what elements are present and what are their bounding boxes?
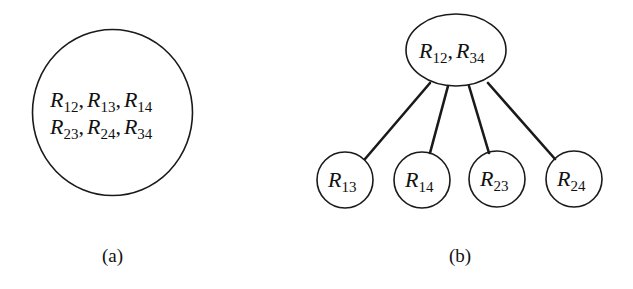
edge-root-to-r23	[469, 86, 489, 153]
edge-root-to-r13	[365, 83, 430, 159]
child-node-label: R24	[556, 166, 586, 194]
edge-root-to-r24	[488, 83, 555, 159]
panel-b: R12,R34 R13 R14 R23 R24 (b)	[317, 14, 602, 267]
child-node-label: R13	[327, 167, 356, 195]
edge-root-to-r14	[430, 86, 448, 153]
panel-a-row-2: R23,R24,R34	[49, 114, 153, 142]
child-node-r24: R24	[546, 151, 602, 207]
panel-a-caption: (a)	[102, 245, 123, 267]
panel-a-row-1: R12,R13,R14	[49, 87, 153, 115]
child-node-label: R14	[404, 167, 434, 195]
panel-a: R12,R13,R14 R23,R24,R34 (a)	[33, 30, 193, 268]
child-node-r14: R14	[394, 152, 450, 208]
child-node-r13: R13	[317, 152, 373, 208]
child-node-r23: R23	[469, 151, 525, 207]
child-node-label: R23	[479, 166, 508, 194]
diagram-canvas: R12,R13,R14 R23,R24,R34 (a) R12,R34 R13 …	[0, 0, 633, 289]
panel-b-caption: (b)	[449, 245, 471, 267]
root-node-label: R12,R34	[418, 38, 485, 66]
